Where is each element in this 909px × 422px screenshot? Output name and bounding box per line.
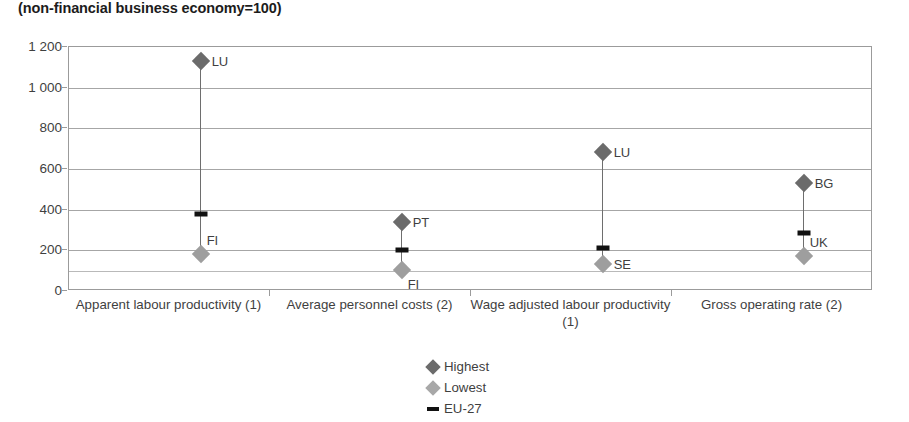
gridline-minor	[69, 271, 871, 272]
y-axis-ticks	[0, 46, 68, 290]
y-axis-tick	[62, 127, 67, 128]
y-axis-tick	[62, 249, 67, 250]
gridline	[69, 210, 871, 211]
gridline	[69, 169, 871, 170]
x-axis-category-labels: Apparent labour productivity (1)Average …	[68, 296, 872, 342]
chart-legend: HighestLowestEU-27	[424, 356, 584, 419]
diamond-icon	[424, 381, 442, 395]
legend-item-label: Lowest	[444, 380, 486, 395]
x-axis-category-label: Gross operating rate (2)	[671, 296, 872, 313]
highest-country-label: LU	[614, 144, 631, 159]
highest-marker	[392, 213, 410, 231]
chart-title: (non-financial business economy=100)	[18, 0, 282, 16]
eu27-marker	[194, 211, 207, 216]
range-connector-line	[200, 61, 201, 254]
y-axis-tick	[62, 209, 67, 210]
plot-area: LUFIPTFILUSEBGUK	[68, 46, 872, 290]
gridline	[69, 88, 871, 89]
legend-item-eu-27: EU-27	[424, 398, 584, 419]
eu27-marker	[596, 246, 609, 251]
y-axis-tick	[62, 168, 67, 169]
x-axis-category-label: Apparent labour productivity (1)	[68, 296, 269, 313]
eu27-marker	[797, 231, 810, 236]
legend-item-lowest: Lowest	[424, 377, 584, 398]
legend-item-label: Highest	[444, 359, 489, 374]
dash-icon	[424, 402, 442, 416]
gridline	[69, 128, 871, 129]
lowest-country-label: FI	[207, 233, 219, 248]
y-axis-tick	[62, 46, 67, 47]
legend-item-highest: Highest	[424, 356, 584, 377]
highest-country-label: PT	[413, 214, 430, 229]
x-axis-category-label: Average personnel costs (2)	[269, 296, 470, 313]
highest-country-label: LU	[212, 54, 229, 69]
legend-item-label: EU-27	[444, 401, 482, 416]
lowest-marker	[191, 245, 209, 263]
highest-country-label: BG	[815, 176, 834, 191]
lowest-country-label: FI	[408, 276, 420, 291]
range-connector-line	[803, 183, 804, 256]
chart-container: (non-financial business economy=100) 020…	[0, 0, 909, 422]
highest-marker	[593, 143, 611, 161]
diamond-icon	[424, 360, 442, 374]
highest-marker	[191, 52, 209, 70]
gridline	[69, 250, 871, 251]
y-axis-tick	[62, 290, 67, 291]
lowest-country-label: SE	[614, 256, 631, 271]
highest-marker	[794, 174, 812, 192]
x-axis-category-label: Wage adjusted labour productivity (1)	[470, 296, 671, 330]
lowest-country-label: UK	[810, 235, 828, 250]
y-axis-tick	[62, 87, 67, 88]
eu27-marker	[395, 248, 408, 253]
